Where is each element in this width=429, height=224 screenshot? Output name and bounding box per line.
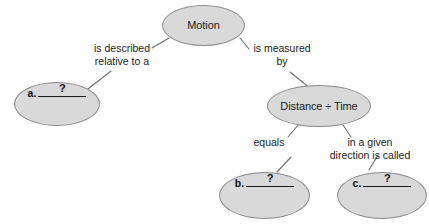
node-answer-a[interactable]: a. ? [14, 82, 100, 126]
node-answer-b[interactable]: b. ? [219, 172, 310, 219]
edge-label-equals: equals [239, 136, 299, 149]
connector-described-to-answer-a [88, 71, 111, 89]
node-answer-b-letter: b. [235, 177, 244, 189]
node-motion[interactable]: Motion [162, 5, 245, 46]
node-answer-a-question-mark: ? [38, 82, 86, 94]
node-answer-c[interactable]: c. ? [337, 172, 427, 219]
node-distance-time[interactable]: Distance ÷ Time [267, 85, 371, 127]
node-answer-a-blank-rule[interactable]: ? [38, 83, 86, 97]
edge-label-is-measured-by: is measured by [240, 42, 324, 67]
node-motion-label: Motion [187, 19, 219, 31]
edge-label-in-a-given-direction-is-called: in a given direction is called [311, 136, 429, 161]
concept-map-diagram: Motion a. ? Distance ÷ Time b. ? c. ? is… [0, 0, 429, 224]
edge-label-is-described-relative-to-a: is described relative to a [76, 42, 168, 67]
node-answer-c-question-mark: ? [363, 172, 411, 184]
connector-equals-to-answer-b [277, 157, 291, 172]
node-answer-c-letter: c. [353, 177, 362, 189]
node-answer-b-question-mark: ? [246, 172, 294, 184]
node-answer-c-blank-rule[interactable]: ? [363, 173, 411, 187]
node-distance-time-label: Distance ÷ Time [280, 100, 357, 112]
node-answer-a-letter: a. [28, 87, 37, 99]
node-answer-b-blank-rule[interactable]: ? [246, 173, 294, 187]
